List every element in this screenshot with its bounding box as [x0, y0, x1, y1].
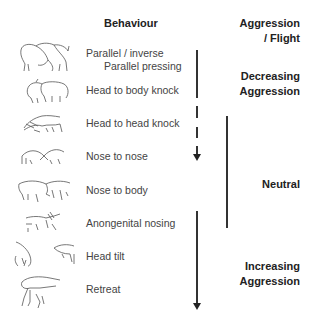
decreasing-aggression-arrowhead-icon [193, 154, 201, 161]
behaviour-label-nose-to-nose: Nose to nose [86, 150, 148, 163]
behaviour-label-parallel-pressing-line2: Parallel pressing [86, 60, 182, 73]
increasing-aggression-arrowhead-icon [193, 303, 201, 310]
pigs-nose-to-body-icon [16, 178, 72, 204]
category-decreasing-line2: Aggression [190, 84, 300, 99]
decreasing-aggression-line-dash-3 [196, 146, 198, 154]
pigs-head-tilt-icon [12, 240, 76, 268]
aggression-flight-header-line2: / Flight [180, 31, 300, 46]
behaviour-label-head-tilt: Head tilt [86, 250, 125, 263]
pig-retreat-icon [16, 272, 62, 310]
category-decreasing-aggression: Decreasing Aggression [190, 69, 300, 99]
behaviour-label-retreat: Retreat [86, 283, 120, 296]
aggression-flight-header: Aggression / Flight [180, 16, 300, 46]
aggression-flight-header-line1: Aggression [180, 16, 300, 31]
pigs-head-to-body-knock-icon [24, 78, 70, 104]
behaviour-label-head-to-head-knock: Head to head knock [86, 117, 179, 130]
category-decreasing-line1: Decreasing [190, 69, 300, 84]
pigs-nose-to-nose-icon [20, 146, 66, 168]
pigs-head-to-head-knock-icon [20, 112, 64, 134]
behaviour-label-head-to-body-knock: Head to body knock [86, 84, 179, 97]
behaviour-column-header: Behaviour [104, 17, 158, 29]
neutral-range-line [226, 116, 228, 228]
behaviour-label-parallel-pressing: Parallel / inverse Parallel pressing [86, 47, 182, 73]
increasing-aggression-line [196, 211, 198, 304]
category-increasing-line2: Aggression [190, 274, 300, 289]
behaviour-label-nose-to-body: Nose to body [86, 184, 148, 197]
pigs-parallel-pressing-icon [18, 40, 70, 74]
category-increasing-aggression: Increasing Aggression [190, 259, 300, 289]
category-neutral: Neutral [190, 177, 300, 192]
pigs-anogenital-nosing-icon [22, 210, 62, 234]
category-increasing-line1: Increasing [190, 259, 300, 274]
decreasing-aggression-line-dash-1 [196, 106, 198, 118]
behaviour-label-parallel-pressing-line1: Parallel / inverse [86, 47, 182, 60]
decreasing-aggression-line-dash-2 [196, 127, 198, 138]
behaviour-label-anogenital-nosing: Anongenital nosing [86, 217, 175, 230]
